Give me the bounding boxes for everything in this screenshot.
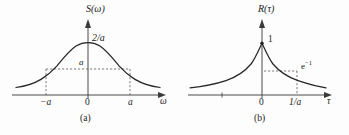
panel-b-decay-label: e−1 [301, 60, 312, 71]
panel-a-xtick-plus-a: a [128, 98, 133, 108]
panel-a-xtick-minus-a: −a [40, 98, 51, 108]
panel-b-autocorrelation: R(τ) 1 e−1 0 1/a τ (b) [174, 0, 349, 135]
figure-root: S(ω) 2/a a −a 0 a ω (a) [0, 0, 349, 135]
panel-b-xtick-zero: 0 [259, 98, 264, 108]
y-axis-a [85, 19, 91, 95]
panel-b-axis-title: R(τ) [258, 4, 274, 14]
y-axis-b [259, 19, 265, 95]
panel-b-decay-exponent: −1 [305, 59, 312, 66]
panel-a-peak-label: 2/a [92, 33, 105, 43]
panel-a-caption: (a) [80, 113, 91, 123]
panel-a-spectral-density: S(ω) 2/a a −a 0 a ω (a) [0, 0, 175, 135]
panel-b-xtick-one-over-a: 1/a [289, 98, 301, 108]
panel-a-axis-title: S(ω) [86, 4, 105, 14]
panel-b-caption: (b) [254, 113, 265, 123]
panel-a-x-axis-label: ω [160, 97, 167, 107]
peak-marker-b [260, 42, 263, 45]
panel-b-x-axis-label: τ [327, 97, 330, 107]
panel-a-xtick-zero: 0 [85, 98, 90, 108]
panel-b-peak-label: 1 [268, 35, 273, 45]
panel-a-halfmax-label: a [79, 58, 84, 67]
